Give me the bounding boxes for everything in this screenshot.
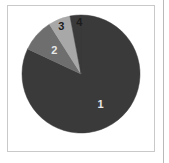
pie-label-1: 1 [98, 98, 104, 110]
pie-chart-svg: 1 2 3 4 [8, 6, 156, 153]
figure-frame: 1 2 3 4 [7, 5, 155, 152]
pie-label-2: 2 [51, 44, 57, 56]
pie-label-4: 4 [76, 16, 83, 28]
pie-chart: 1 2 3 4 [8, 6, 156, 153]
screenshot-root: 1 2 3 4 [0, 0, 169, 163]
pie-label-3: 3 [58, 20, 64, 32]
panel-divider [163, 0, 164, 163]
